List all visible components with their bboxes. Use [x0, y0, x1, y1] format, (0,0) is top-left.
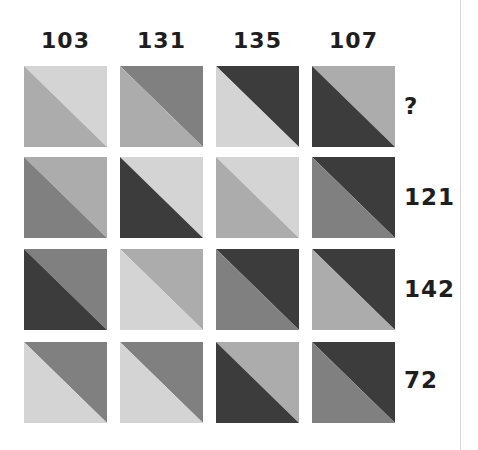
tile-r2-c4 [312, 157, 395, 238]
diagonal-split-tile-graphic [216, 249, 299, 330]
tile-r4-c4 [312, 342, 395, 423]
diagonal-split-tile-graphic [24, 157, 107, 238]
tile-r3-c3 [216, 249, 299, 330]
tile-r1-c4 [312, 66, 395, 147]
column-total-1: 103 [24, 28, 107, 53]
tile-r3-c2 [120, 249, 203, 330]
tile-r4-c2 [120, 342, 203, 423]
diagonal-split-tile-graphic [312, 157, 395, 238]
row-total-4: 72 [404, 367, 438, 393]
diagonal-split-tile-graphic [312, 66, 395, 147]
diagonal-split-tile-graphic [24, 66, 107, 147]
vertical-divider-line [460, 0, 461, 450]
diagonal-split-tile-graphic [120, 342, 203, 423]
row-total-2: 121 [404, 184, 455, 210]
tile-r1-c3 [216, 66, 299, 147]
tile-r4-c1 [24, 342, 107, 423]
diagonal-split-tile-graphic [24, 342, 107, 423]
tile-r4-c3 [216, 342, 299, 423]
column-total-2: 131 [120, 28, 203, 53]
tile-r1-c2 [120, 66, 203, 147]
diagonal-split-tile-graphic [216, 66, 299, 147]
column-total-4: 107 [312, 28, 395, 53]
diagonal-split-tile-graphic [120, 66, 203, 147]
tile-r3-c1 [24, 249, 107, 330]
column-total-3: 135 [216, 28, 299, 53]
tile-r2-c3 [216, 157, 299, 238]
row-total-1-unknown: ? [404, 93, 418, 119]
tile-r2-c1 [24, 157, 107, 238]
tile-r3-c4 [312, 249, 395, 330]
diagonal-split-tile-graphic [216, 342, 299, 423]
diagonal-split-tile-graphic [312, 342, 395, 423]
diagonal-split-tile-graphic [120, 249, 203, 330]
tile-r1-c1 [24, 66, 107, 147]
diagonal-split-tile-graphic [24, 249, 107, 330]
row-total-3: 142 [404, 276, 455, 302]
diagonal-split-tile-graphic [216, 157, 299, 238]
tile-r2-c2 [120, 157, 203, 238]
diagonal-split-tile-graphic [120, 157, 203, 238]
diagonal-split-tile-graphic [312, 249, 395, 330]
